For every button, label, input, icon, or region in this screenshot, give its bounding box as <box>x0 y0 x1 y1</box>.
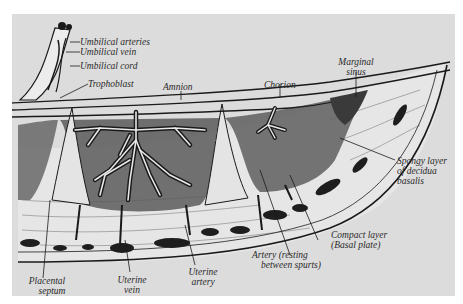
label-umbilical-cord: Umbilical cord <box>80 61 137 71</box>
label-spongy-layer-line3: basalis <box>397 176 447 186</box>
label-marginal-sinus-line2: sinus <box>334 67 378 77</box>
label-spongy-layer: Spongy layer of decidua basalis <box>397 156 447 186</box>
label-compact-layer-line1: Compact layer <box>331 230 387 240</box>
label-uterine-vein: Uterine vein <box>114 275 150 295</box>
label-placental-septum-line2: septum <box>24 286 70 296</box>
label-compact-layer-line2: (Basal plate) <box>331 240 387 250</box>
label-uterine-artery: Uterine artery <box>185 267 221 287</box>
label-artery-resting-line1: Artery (resting <box>252 250 321 260</box>
label-compact-layer: Compact layer (Basal plate) <box>331 230 387 250</box>
label-marginal-sinus: Marginal sinus <box>334 57 378 77</box>
placenta-illustration <box>0 0 463 304</box>
label-spongy-layer-line2: of decidua <box>397 166 447 176</box>
label-artery-resting-line2: between spurts) <box>252 260 321 270</box>
label-spongy-layer-line1: Spongy layer <box>397 156 447 166</box>
label-umbilical-vein: Umbilical vein <box>80 47 136 57</box>
label-amnion: Amnion <box>163 82 193 92</box>
label-uterine-vein-line1: Uterine <box>114 275 150 285</box>
label-trophoblast: Trophoblast <box>88 79 134 89</box>
label-umbilical-arteries: Umbilical arteries <box>80 37 150 47</box>
label-uterine-artery-line2: artery <box>185 277 221 287</box>
label-marginal-sinus-line1: Marginal <box>334 57 378 67</box>
label-uterine-vein-line2: vein <box>114 285 150 295</box>
label-artery-resting: Artery (resting between spurts) <box>252 250 321 270</box>
label-placental-septum-line1: Placental <box>24 276 70 286</box>
label-placental-septum: Placental septum <box>24 276 70 296</box>
label-chorion: Chorion <box>264 80 296 90</box>
label-uterine-artery-line1: Uterine <box>185 267 221 277</box>
umbilical-cord <box>20 28 70 100</box>
